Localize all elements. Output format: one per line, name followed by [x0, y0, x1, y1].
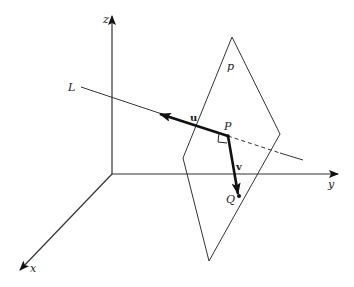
point-Q-dot	[237, 194, 241, 198]
line-L-label: L	[67, 81, 75, 94]
vector-v: v	[228, 136, 243, 194]
point-P-label: P	[223, 120, 232, 133]
x-axis-label: x	[30, 262, 37, 275]
y-axis-label: y	[327, 178, 335, 191]
diagram-canvas: z y x p L u v P Q	[0, 0, 354, 287]
vector-u: u	[160, 112, 228, 136]
line-L-back	[280, 153, 303, 160]
plane-label: p	[227, 60, 234, 73]
point-Q: Q	[226, 193, 241, 206]
vector-u-label: u	[190, 112, 197, 123]
vector-v-label: v	[235, 161, 243, 172]
point-P-dot	[226, 134, 230, 138]
point-Q-label: Q	[226, 193, 235, 206]
line-L: L	[67, 81, 303, 160]
coordinate-axes: z y x	[20, 13, 338, 275]
z-axis-label: z	[102, 13, 109, 26]
line-L-behind-plane	[228, 136, 280, 153]
x-axis	[20, 174, 112, 270]
